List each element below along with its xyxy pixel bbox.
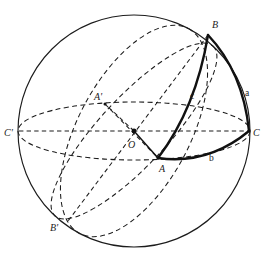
arc-c-a-to-b xyxy=(158,35,208,158)
radius-o-a xyxy=(134,131,158,158)
label-side-c: c xyxy=(190,91,194,101)
label-vertex-bprime: B' xyxy=(50,222,59,233)
label-vertex-a: A xyxy=(158,163,166,174)
label-vertex-cprime: C' xyxy=(4,127,14,138)
label-vertex-b: B xyxy=(212,19,218,30)
label-vertex-aprime: A' xyxy=(93,91,103,102)
vertex-dot-a xyxy=(157,157,160,160)
vertex-dot-aprime xyxy=(104,103,107,106)
arc-a-b-to-c xyxy=(208,35,249,131)
radius-o-aprime xyxy=(105,104,134,131)
diameter-b-bprime xyxy=(68,35,208,221)
label-side-a: a xyxy=(245,88,250,98)
label-side-b: b xyxy=(209,153,214,163)
label-vertex-o: O xyxy=(128,139,135,150)
spherical-triangle-figure: B A C C' A' B' O a b c xyxy=(0,0,266,265)
vertex-dot-o xyxy=(132,129,137,134)
sphere-diagram-svg: B A C C' A' B' O a b c xyxy=(0,0,266,265)
label-vertex-c: C xyxy=(253,127,260,138)
